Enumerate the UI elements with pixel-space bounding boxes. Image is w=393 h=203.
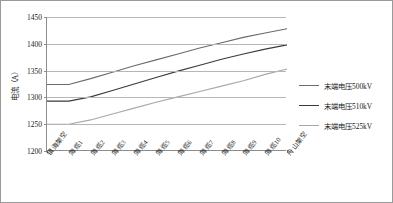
gridline: [47, 71, 286, 72]
legend-line-icon: [299, 85, 319, 86]
y-tick-label: 1400: [18, 39, 42, 48]
series-line-1: [47, 29, 287, 85]
chart-legend: 末端电压500kV末端电压510kV末端电压525kV: [299, 75, 391, 135]
y-tick-mark: [44, 17, 47, 18]
plot-area: [46, 17, 286, 151]
gridline: [47, 44, 286, 45]
gridline: [47, 17, 286, 18]
x-axis-tick-labels: 镇海架空海缆1海缆2海缆3海缆4海缆5海缆6海缆7海缆8海缆9海缆10舟山架空: [46, 151, 286, 203]
legend-label: 末端电压500kV: [324, 80, 372, 91]
series-lines: [47, 17, 287, 151]
y-tick-mark: [44, 44, 47, 45]
gridline: [47, 97, 286, 98]
legend-label: 末端电压525kV: [324, 120, 372, 131]
y-tick-label: 1250: [18, 120, 42, 129]
legend-line-icon: [299, 125, 319, 126]
legend-line-icon: [299, 105, 319, 106]
legend-item[interactable]: 末端电压525kV: [299, 115, 391, 135]
legend-label: 末端电压510kV: [324, 100, 372, 111]
y-tick-label: 1300: [18, 93, 42, 102]
y-tick-label: 1350: [18, 66, 42, 75]
legend-item[interactable]: 末端电压500kV: [299, 75, 391, 95]
series-line-2: [47, 45, 287, 101]
y-tick-mark: [44, 71, 47, 72]
chart-container: 电流（A） 145014001350130012501200 镇海架空海缆1海缆…: [0, 0, 393, 203]
y-tick-label: 1200: [18, 147, 42, 156]
y-tick-mark: [44, 124, 47, 125]
legend-item[interactable]: 末端电压510kV: [299, 95, 391, 115]
y-tick-mark: [44, 97, 47, 98]
y-axis-tick-labels: 145014001350130012501200: [17, 1, 42, 203]
gridline: [47, 124, 286, 125]
y-tick-label: 1450: [18, 13, 42, 22]
